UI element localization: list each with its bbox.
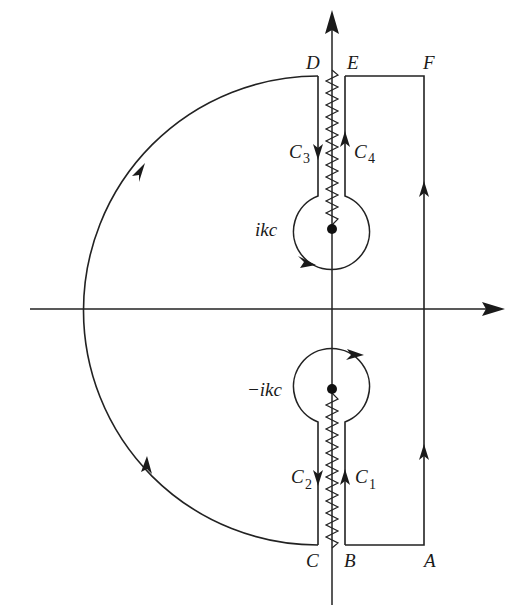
label-C2: C 2 — [291, 466, 312, 492]
label-point-F: F — [422, 52, 435, 73]
svg-text:C: C — [354, 141, 367, 162]
svg-text:3: 3 — [303, 151, 310, 166]
label-point-A: A — [422, 550, 436, 571]
contour-left-arc — [84, 76, 318, 545]
svg-text:C: C — [289, 141, 302, 162]
real-axis — [30, 302, 505, 316]
label-C3: C 3 — [289, 141, 310, 166]
arrow-upper-circle-icon — [298, 256, 316, 268]
label-point-E: E — [346, 52, 359, 73]
svg-text:4: 4 — [368, 151, 375, 166]
label-point-B: B — [344, 550, 356, 571]
label-C1: C 1 — [355, 466, 376, 492]
contour-diagram: D E F C B A C 3 C 4 C 2 C 1 ikc −ikc — [0, 0, 528, 613]
label-C4: C 4 — [354, 141, 375, 166]
svg-text:2: 2 — [305, 477, 312, 492]
label-branch-point-minus-ikc: −ikc — [247, 379, 283, 400]
branch-point-upper-dot — [327, 224, 337, 234]
svg-text:1: 1 — [369, 477, 376, 492]
label-branch-point-ikc: ikc — [255, 219, 278, 240]
arrow-lower-circle-icon — [346, 349, 364, 360]
label-point-D: D — [305, 52, 320, 73]
svg-text:C: C — [291, 466, 304, 487]
label-point-C: C — [306, 550, 319, 571]
branch-point-lower-dot — [327, 384, 337, 394]
svg-text:C: C — [355, 466, 368, 487]
